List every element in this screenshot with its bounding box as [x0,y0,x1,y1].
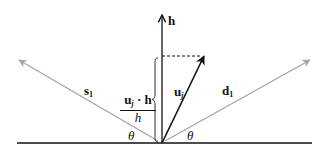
fraction-numerator: uj · h [120,93,156,111]
projection-fraction: uj · h h [120,93,156,125]
numerator-op: · h [134,92,152,107]
theta-left-label: θ [128,129,134,142]
h-label: h [168,14,175,27]
numerator-sub: j [131,99,133,108]
fraction-denominator: h [120,111,156,125]
uj-label: uj [174,85,183,98]
uj-vector-arrow [162,56,204,143]
d1-label: d1 [222,84,233,97]
d1-label-sub: 1 [229,90,233,99]
theta-right-label: θ [187,129,193,142]
reflection-vector-diagram [0,0,325,152]
s1-label-sub: 1 [89,90,93,99]
s1-label: s1 [84,84,93,97]
